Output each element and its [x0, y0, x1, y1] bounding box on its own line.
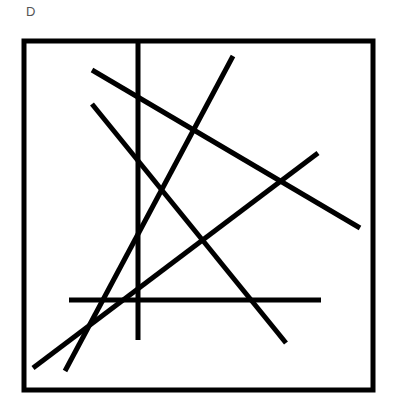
line-group [33, 41, 360, 371]
line-segment-5 [33, 153, 318, 368]
line-segment-2 [92, 70, 360, 228]
line-figure-diagram [0, 0, 393, 414]
